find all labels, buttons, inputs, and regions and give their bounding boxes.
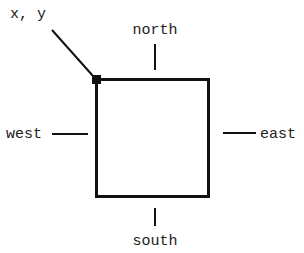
origin-label: x, y [10, 6, 46, 23]
west-label: west [6, 126, 42, 143]
south-label: south [132, 233, 177, 250]
origin-pointer-line [52, 30, 93, 76]
east-label: east [260, 126, 296, 143]
north-label: north [132, 22, 177, 39]
box-diagram: x, y north south west east [0, 0, 304, 253]
origin-marker [92, 75, 101, 84]
box-rect [97, 80, 209, 197]
